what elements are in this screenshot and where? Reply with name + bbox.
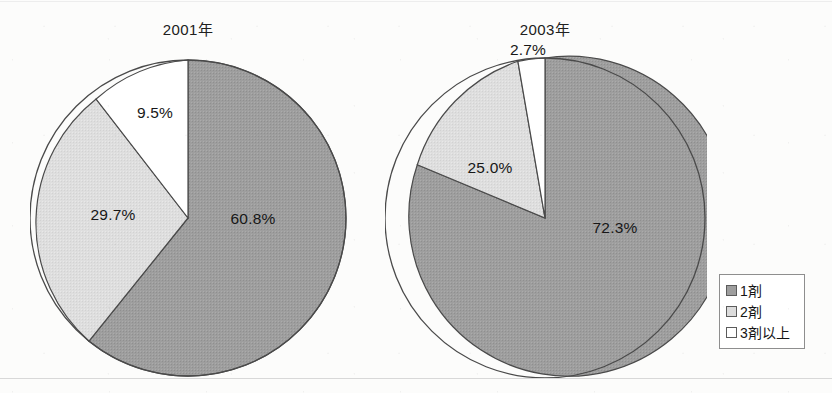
pie-svg-left	[30, 55, 350, 380]
pie-svg-right	[385, 55, 707, 382]
chart-legend: 1剤 2剤 3剤以上	[719, 274, 805, 349]
legend-swatch-2zai	[726, 306, 737, 317]
pie-label-left-3zai-ijou: 9.5%	[137, 104, 173, 122]
pie-label-right-3zai-ijou: 2.7%	[510, 41, 546, 59]
pie-label-left-1zai: 60.8%	[231, 210, 276, 228]
page-bottom-rule	[0, 378, 832, 379]
legend-swatch-3zai-ijou	[726, 327, 737, 338]
legend-swatch-1zai	[726, 285, 737, 296]
pie-label-right-1zai: 72.3%	[593, 219, 638, 237]
chart-title-right: 2003年	[485, 18, 605, 39]
legend-label-1zai: 1剤	[740, 284, 762, 298]
legend-label-2zai: 2剤	[740, 305, 762, 319]
figure-canvas: 2001年 60.8%	[0, 0, 832, 393]
pie-label-left-2zai: 29.7%	[91, 206, 136, 224]
legend-item-2zai: 2剤	[726, 301, 799, 322]
legend-item-3zai-ijou: 3剤以上	[726, 322, 799, 343]
chart-title-left: 2001年	[128, 18, 248, 39]
page-top-rule	[0, 1, 832, 2]
legend-label-3zai-ijou: 3剤以上	[740, 326, 790, 340]
legend-item-1zai: 1剤	[726, 280, 799, 301]
pie-label-right-2zai: 25.0%	[468, 159, 513, 177]
